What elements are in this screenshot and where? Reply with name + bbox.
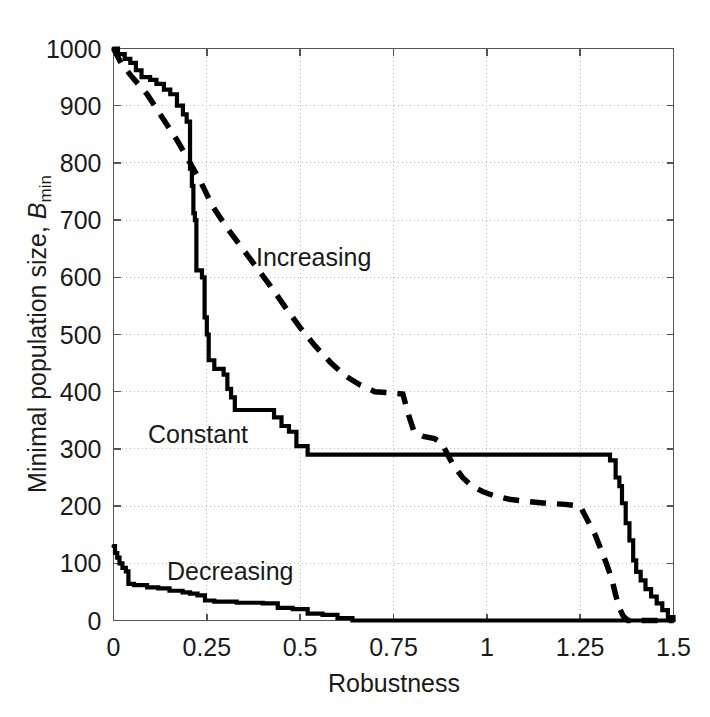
series-label-increasing: Increasing — [256, 243, 371, 272]
gridlines — [114, 49, 674, 621]
chart-figure: 01002003004005006007008009001000 00.250.… — [0, 0, 710, 717]
y-axis-title: Minimal population size, Bmin — [23, 175, 52, 493]
y-axis-title-subscript: min — [36, 175, 55, 202]
x-tick-label: 1.25 — [556, 633, 605, 662]
x-tick-label: 0.25 — [182, 633, 231, 662]
y-tick-label: 0 — [0, 606, 102, 635]
y-tick-label: 100 — [0, 549, 102, 578]
y-axis-title-text: Minimal population size, — [23, 219, 51, 493]
y-tick-label: 800 — [0, 148, 102, 177]
series-label-constant: Constant — [148, 420, 248, 449]
x-tick-label: 0.5 — [283, 633, 318, 662]
x-axis-title: Robustness — [328, 669, 460, 698]
plot-canvas — [0, 0, 710, 717]
y-axis-title-variable: B — [23, 202, 51, 219]
y-tick-label: 200 — [0, 492, 102, 521]
x-tick-label: 1 — [480, 633, 494, 662]
series-label-decreasing: Decreasing — [167, 557, 293, 586]
y-tick-label: 1000 — [0, 34, 102, 63]
y-tick-label: 900 — [0, 91, 102, 120]
x-tick-label: 0.75 — [369, 633, 418, 662]
x-tick-label: 1.5 — [656, 633, 691, 662]
x-tick-label: 0 — [107, 633, 121, 662]
